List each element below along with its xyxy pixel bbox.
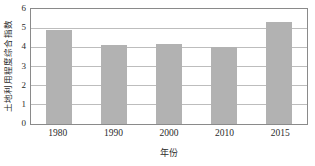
bar <box>156 44 182 125</box>
x-axis-tick-label: 1990 <box>86 127 142 141</box>
x-axis-tick-label: 2000 <box>141 127 197 141</box>
y-axis-tick-label: 0 <box>22 119 27 128</box>
y-axis-title-label: 土地利用程度综合指数 <box>1 20 13 112</box>
bar <box>46 30 72 124</box>
bar <box>266 22 292 124</box>
x-axis-tick-label: 2010 <box>197 127 253 141</box>
y-axis-title: 土地利用程度综合指数 <box>0 0 14 132</box>
bar-slot <box>86 9 141 124</box>
y-axis-tick-label: 3 <box>22 61 27 70</box>
bar-slot <box>252 9 307 124</box>
x-axis-tick-labels: 19801990200020102015 <box>30 127 308 141</box>
y-axis-tick-labels: 0123456 <box>14 8 28 125</box>
x-axis-tick-label: 2015 <box>252 127 308 141</box>
bar-slot <box>197 9 252 124</box>
bar-slot <box>31 9 86 124</box>
bar <box>101 45 127 124</box>
land-use-degree-bar-chart: 土地利用程度综合指数 0123456 19801990200020102015 … <box>0 0 315 166</box>
y-axis-tick-label: 4 <box>22 42 27 51</box>
plot-area <box>30 8 308 125</box>
y-axis-tick-label: 1 <box>22 99 27 108</box>
y-axis-tick-label: 5 <box>22 23 27 32</box>
y-axis-tick-label: 6 <box>22 4 27 13</box>
bar <box>211 47 237 124</box>
x-axis-title: 年份 <box>30 146 308 159</box>
y-axis-tick-label: 2 <box>22 80 27 89</box>
x-axis-tick-label: 1980 <box>30 127 86 141</box>
bars-group <box>31 9 307 124</box>
bar-slot <box>141 9 196 124</box>
